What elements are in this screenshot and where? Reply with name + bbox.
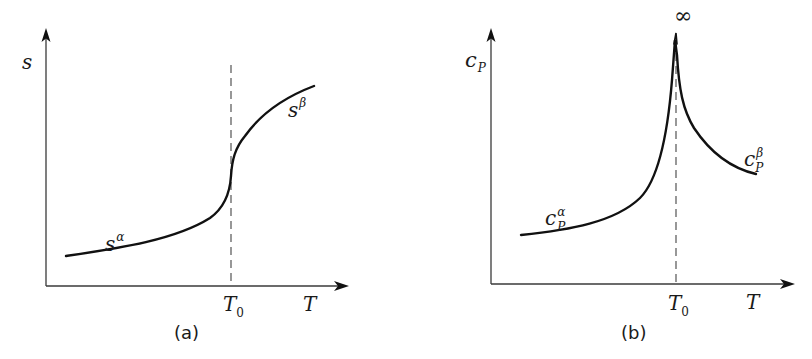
panel-a-caption: (a) (174, 322, 199, 343)
panel-a-y-label: s (22, 50, 32, 74)
panel-a-x-label: T (303, 292, 318, 316)
panel-a-transition-tick-label: T0 (223, 292, 244, 320)
panel-b-heat-capacity: ∞ cP cαP cβP T0 T (b) (465, 3, 795, 343)
panel-b-high-phase-label: cβP (744, 146, 764, 175)
panel-b-peak-infinity-label: ∞ (674, 3, 692, 28)
panel-b-caption: (b) (621, 322, 646, 343)
phase-transition-figure: s sβ sα T0 T (a) ∞ cP cαP (0, 0, 812, 359)
panel-a-high-phase-label: sβ (288, 96, 306, 122)
panel-b-low-phase-label: cαP (545, 205, 566, 234)
panel-a-entropy: s sβ sα T0 T (a) (22, 28, 349, 343)
panel-b-x-label: T (746, 290, 761, 314)
panel-a-entropy-curve (66, 86, 314, 256)
panel-b-y-label: cP (465, 48, 487, 75)
panel-a-low-phase-label: sα (105, 230, 124, 256)
panel-b-transition-tick-label: T0 (668, 291, 689, 319)
